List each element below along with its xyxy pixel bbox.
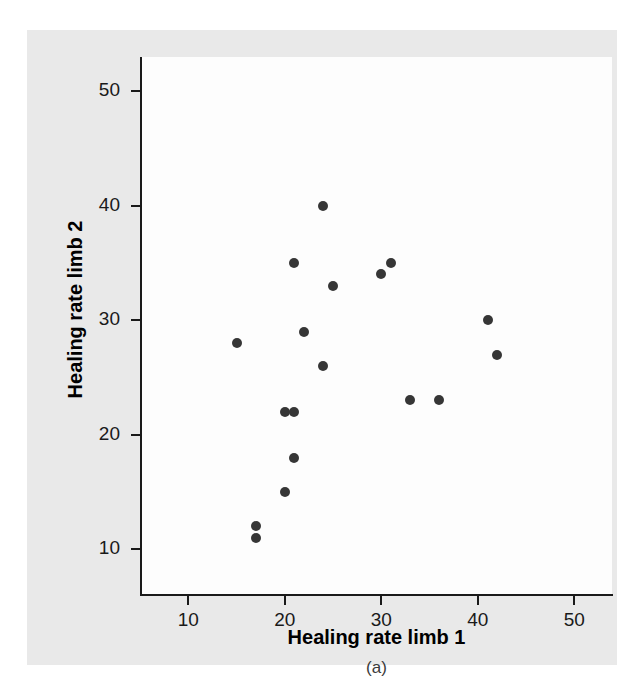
x-tick-mark bbox=[477, 596, 479, 605]
x-axis-line bbox=[140, 594, 613, 596]
y-tick-mark bbox=[131, 319, 140, 321]
scatter-point bbox=[251, 533, 261, 543]
y-axis-line bbox=[140, 57, 142, 596]
scatter-point bbox=[280, 487, 290, 497]
y-tick-mark bbox=[131, 434, 140, 436]
scatter-point bbox=[386, 258, 396, 268]
scatter-point bbox=[328, 281, 338, 291]
scatter-point bbox=[232, 338, 242, 348]
plot-canvas bbox=[140, 57, 612, 595]
scatter-point bbox=[483, 315, 493, 325]
x-tick-mark bbox=[573, 596, 575, 605]
x-tick-mark bbox=[284, 596, 286, 605]
scatter-point bbox=[280, 407, 290, 417]
x-axis-title: Healing rate limb 1 bbox=[140, 626, 613, 649]
x-tick-mark bbox=[187, 596, 189, 605]
figure-subcaption: (a) bbox=[140, 658, 613, 678]
figure-panel: 1020304050 1020304050 Healing rate limb … bbox=[27, 30, 617, 665]
scatter-point bbox=[492, 350, 502, 360]
y-tick-mark bbox=[131, 548, 140, 550]
y-tick-mark bbox=[131, 205, 140, 207]
scatter-point bbox=[299, 327, 309, 337]
y-axis-title: Healing rate limb 2 bbox=[64, 40, 87, 580]
x-tick-mark bbox=[380, 596, 382, 605]
y-tick-mark bbox=[131, 90, 140, 92]
